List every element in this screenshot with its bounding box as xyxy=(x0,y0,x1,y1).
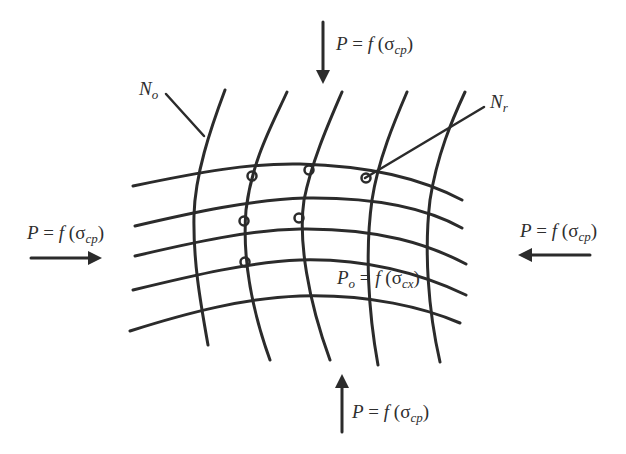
label-sub: cp xyxy=(410,410,422,425)
label-sub: cp xyxy=(578,229,590,244)
label-func: f xyxy=(59,222,64,243)
label-func: f xyxy=(375,267,380,288)
label-sym: σ xyxy=(400,401,410,422)
label-sub: o xyxy=(152,87,159,102)
label-lhs: P xyxy=(337,267,349,288)
internal-stress-label: Po = f (σcx) xyxy=(337,267,420,289)
label-sym: σ xyxy=(75,222,85,243)
label-sub: cp xyxy=(85,231,97,246)
label-func: f xyxy=(368,33,373,54)
node-original-label: No xyxy=(139,78,158,100)
label-lhs: P xyxy=(27,222,39,243)
label-sym: σ xyxy=(384,33,394,54)
mesh-horizontal-line-1 xyxy=(133,164,462,200)
mesh-vertical-line-4 xyxy=(368,92,407,365)
label-lhs-sub: o xyxy=(349,276,356,291)
label-lhs: P xyxy=(352,401,364,422)
label-sym: σ xyxy=(392,267,402,288)
top-arrow-head xyxy=(316,70,330,84)
label-func: f xyxy=(384,401,389,422)
bottom-arrow-head xyxy=(335,374,349,388)
label-sub: cx xyxy=(402,276,414,291)
label-sym: N xyxy=(139,78,152,99)
label-sym: σ xyxy=(568,220,578,241)
node-original-leader-line xyxy=(166,94,204,136)
top-load-label: P = f (σcp) xyxy=(336,33,413,55)
node-rotated-label: Nr xyxy=(490,91,508,113)
left-arrow-head xyxy=(88,251,102,265)
right-arrow-head xyxy=(518,248,532,262)
bottom-load-label: P = f (σcp) xyxy=(352,401,429,423)
label-sub: cp xyxy=(394,42,406,57)
mesh-horizontal-line-5 xyxy=(130,296,460,331)
right-load-label: P = f (σcp) xyxy=(520,220,597,242)
label-sub: r xyxy=(503,100,508,115)
node-rotated-leader-line xyxy=(365,107,484,178)
mesh-vertical-line-3 xyxy=(302,92,342,360)
label-sym: N xyxy=(490,91,503,112)
label-func: f xyxy=(552,220,557,241)
label-lhs: P xyxy=(336,33,348,54)
left-load-label: P = f (σcp) xyxy=(27,222,104,244)
mesh-vertical-line-2 xyxy=(245,92,287,360)
label-lhs: P xyxy=(520,220,532,241)
